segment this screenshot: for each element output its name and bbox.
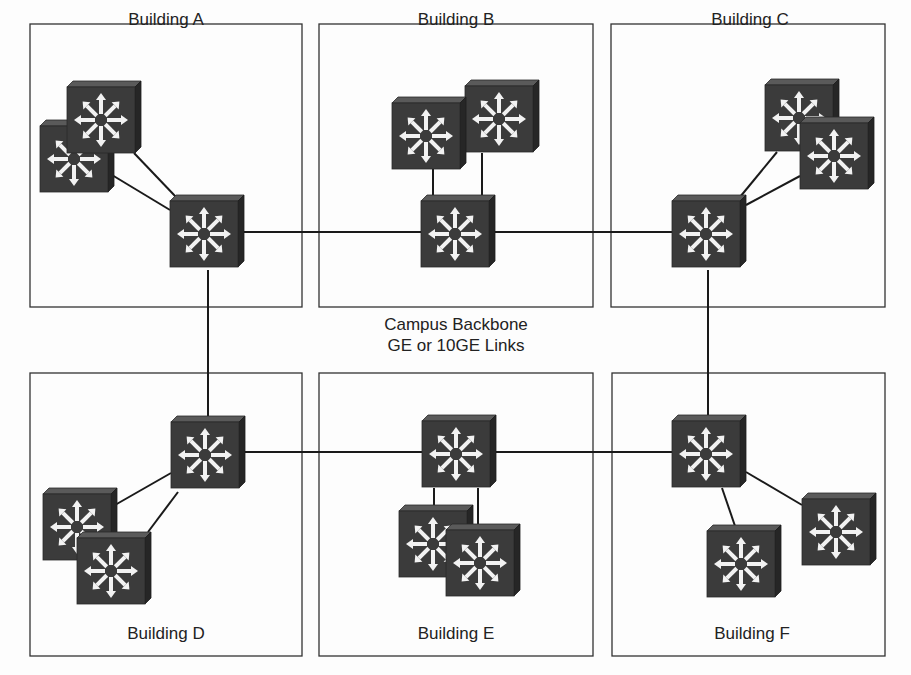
switch-icon-a-access-2[interactable] [64, 81, 141, 157]
building-d-label: Building D [66, 624, 266, 644]
switch-icon-c-access-2[interactable] [797, 117, 874, 193]
access-link-f1 [722, 488, 735, 526]
access-link-a2 [134, 153, 176, 197]
building-e-label: Building E [356, 624, 556, 644]
switch-icon-a-core[interactable] [167, 195, 244, 271]
switch-icon-e-access-2[interactable] [443, 524, 520, 600]
building-c-label: Building C [650, 10, 850, 30]
access-link-f2 [746, 472, 802, 505]
building-f-label: Building F [652, 624, 852, 644]
switch-icon-f-access-1[interactable] [704, 525, 781, 601]
backbone-label-line2: GE or 10GE Links [319, 335, 593, 356]
access-link-d2 [148, 492, 178, 532]
switch-icon-e-core[interactable] [419, 415, 496, 491]
backbone-label-line1: Campus Backbone [319, 314, 593, 335]
switch-icon-c-core[interactable] [669, 195, 746, 271]
switch-icon-b-access-1[interactable] [389, 97, 466, 173]
building-b-label: Building B [356, 10, 556, 30]
switch-icon-f-core[interactable] [669, 415, 746, 491]
switch-icon-b-core[interactable] [418, 195, 495, 271]
switch-icon-d-access-2[interactable] [74, 532, 151, 608]
switch-icon-f-access-2[interactable] [799, 493, 876, 569]
building-a-label: Building A [66, 10, 266, 30]
access-link-d1 [115, 473, 171, 505]
switch-icon-b-access-2[interactable] [462, 80, 539, 156]
switch-icon-d-core[interactable] [168, 416, 245, 492]
campus-backbone-diagram: Building A Building B Building C Buildin… [0, 0, 911, 675]
backbone-label: Campus Backbone GE or 10GE Links [319, 314, 593, 356]
